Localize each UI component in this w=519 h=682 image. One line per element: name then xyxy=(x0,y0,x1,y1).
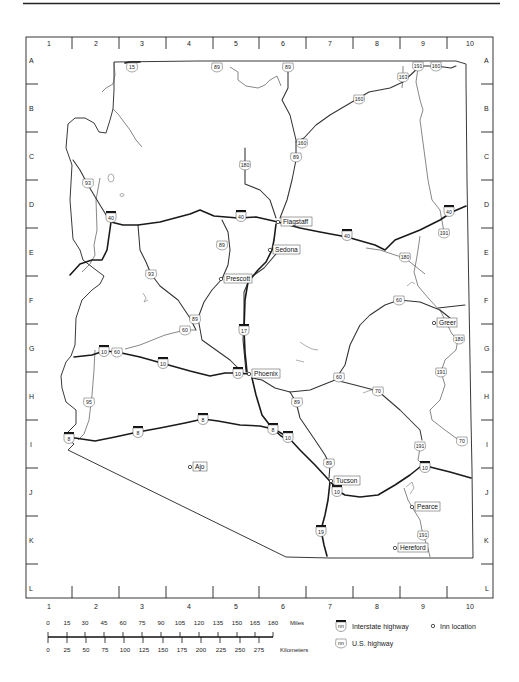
us-shield: 70 xyxy=(457,437,468,446)
us-shield: 180 xyxy=(454,335,465,344)
row-label-left: L xyxy=(29,585,33,592)
svg-text:93: 93 xyxy=(148,271,154,277)
svg-text:60: 60 xyxy=(396,297,402,303)
us-shield: 191 xyxy=(439,229,450,238)
col-label-top: 1 xyxy=(47,40,51,47)
us-shield: 93 xyxy=(83,179,94,188)
svg-text:100: 100 xyxy=(120,646,131,653)
col-label-top: 5 xyxy=(234,40,238,47)
svg-text:95: 95 xyxy=(86,399,92,405)
inn-tucson[interactable]: Tucson xyxy=(329,476,360,485)
us-shield: 160 xyxy=(297,139,308,148)
city-label: Flagstaff xyxy=(283,218,308,226)
svg-text:180: 180 xyxy=(241,162,250,168)
row-label-left: H xyxy=(29,393,34,400)
inn-marker-icon xyxy=(410,505,413,508)
svg-text:60: 60 xyxy=(182,327,188,333)
inn-prescott[interactable]: Prescott xyxy=(219,274,252,283)
lakes xyxy=(108,174,415,494)
inn-ajo[interactable]: Ajo xyxy=(188,462,207,471)
svg-text:105: 105 xyxy=(175,619,186,626)
svg-text:10: 10 xyxy=(285,435,291,441)
us-shield: 60 xyxy=(180,326,191,335)
scale-bar: 0 15 30 45 60 75 90 105 120 135 150 165 … xyxy=(46,619,308,653)
city-label: Greer xyxy=(439,319,457,326)
grand-canyon-river xyxy=(102,62,142,147)
svg-text:191: 191 xyxy=(414,63,423,69)
us-shield: 191 xyxy=(436,368,447,377)
col-label-top: 6 xyxy=(281,40,285,47)
city-label: Phoenix xyxy=(254,370,279,377)
col-label-top: 9 xyxy=(421,40,425,47)
col-label-bottom: 5 xyxy=(234,603,238,610)
inn-greer[interactable]: Greer xyxy=(432,318,457,327)
inn-marker-icon xyxy=(431,624,434,627)
interstate-shield: 40 xyxy=(342,229,352,241)
svg-text:175: 175 xyxy=(177,646,188,653)
col-label-bottom: 10 xyxy=(466,603,474,610)
svg-text:10: 10 xyxy=(101,349,107,355)
svg-text:15: 15 xyxy=(64,619,71,626)
us-shield: 163 xyxy=(398,73,409,82)
interstate-shield: 10 xyxy=(233,367,243,379)
inn-sedona[interactable]: Sedona xyxy=(268,245,300,254)
row-label-left: B xyxy=(29,105,34,112)
us-shield: 191 xyxy=(415,442,426,451)
interstate-highways xyxy=(69,62,471,556)
inn-marker-icon xyxy=(247,372,250,375)
col-label-top: 8 xyxy=(375,40,379,47)
svg-text:93: 93 xyxy=(85,180,91,186)
us-shield: 95 xyxy=(84,398,95,407)
interstate-shield: 8 xyxy=(198,413,208,425)
row-label-right: D xyxy=(484,201,489,208)
row-label-right: A xyxy=(484,57,489,64)
svg-text:10: 10 xyxy=(235,371,241,377)
legend-interstate-label: Interstate highway xyxy=(352,623,409,631)
interstate-shield: 40 xyxy=(444,205,454,217)
row-label-left: A xyxy=(29,57,34,64)
col-label-bottom: 1 xyxy=(47,603,51,610)
arizona-inn-map: 1 2 3 4 5 6 7 8 9 10 1 2 3 4 5 6 7 8 9 1… xyxy=(0,0,519,682)
us-shield: 89 xyxy=(190,315,201,324)
us-shield: 89 xyxy=(292,398,303,407)
row-label-right: C xyxy=(484,153,489,160)
interstate-shield: 10 xyxy=(99,345,109,357)
svg-text:8: 8 xyxy=(137,430,140,436)
row-label-left: J xyxy=(29,489,33,496)
svg-text:nn: nn xyxy=(338,640,344,646)
svg-text:135: 135 xyxy=(213,619,224,626)
us-shield: 15 xyxy=(127,63,138,72)
legend-us: nn U.S. highway xyxy=(336,639,394,648)
row-label-left: G xyxy=(29,345,34,352)
inn-phoenix[interactable]: Phoenix xyxy=(247,369,280,378)
colorado-inner-line xyxy=(82,178,100,272)
row-label-left: E xyxy=(29,249,34,256)
svg-text:10: 10 xyxy=(334,489,340,495)
col-label-top: 4 xyxy=(187,40,191,47)
inn-hereford[interactable]: Hereford xyxy=(393,543,428,552)
svg-text:17: 17 xyxy=(241,328,247,334)
us-shield: 191 xyxy=(413,62,424,71)
svg-text:165: 165 xyxy=(250,619,261,626)
col-label-top: 10 xyxy=(466,40,474,47)
svg-text:89: 89 xyxy=(219,242,225,248)
svg-text:89: 89 xyxy=(294,399,300,405)
inn-flagstaff[interactable]: Flagstaff xyxy=(276,217,312,226)
city-label: Prescott xyxy=(226,275,250,282)
col-label-top: 3 xyxy=(140,40,144,47)
col-label-bottom: 2 xyxy=(94,603,98,610)
interstate-shield: 8 xyxy=(64,432,74,444)
row-label-left: F xyxy=(29,297,33,304)
row-label-right: J xyxy=(485,489,489,496)
us-shield: 93 xyxy=(146,270,157,279)
inn-marker-icon xyxy=(432,321,435,324)
svg-text:19: 19 xyxy=(318,529,324,535)
svg-text:10: 10 xyxy=(422,465,428,471)
row-label-right: E xyxy=(484,249,489,256)
inn-pearce[interactable]: Pearce xyxy=(410,502,440,511)
svg-text:89: 89 xyxy=(285,64,291,70)
inn-marker-icon xyxy=(268,248,271,251)
us-shield: 89 xyxy=(283,63,294,72)
svg-text:89: 89 xyxy=(214,64,220,70)
inn-marker-icon xyxy=(276,220,279,223)
